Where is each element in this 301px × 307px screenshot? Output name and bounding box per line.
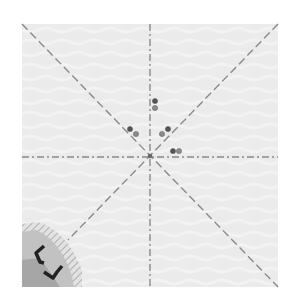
reference-dot <box>176 148 181 153</box>
diagram-canvas <box>0 0 301 307</box>
reference-dot <box>170 148 175 153</box>
reference-dot <box>165 126 170 131</box>
reference-dot <box>133 131 138 136</box>
reference-dot <box>152 105 157 110</box>
reference-dot <box>127 126 132 131</box>
origami-diagram <box>0 0 301 307</box>
reference-dot <box>159 131 164 136</box>
reference-dot <box>152 98 157 103</box>
center-point <box>148 154 152 158</box>
